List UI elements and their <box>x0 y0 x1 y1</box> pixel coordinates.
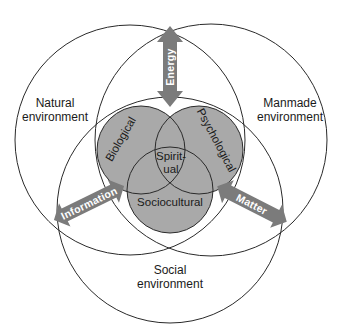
spiritual-label-line1: Spirit- <box>156 150 186 162</box>
spiritual-label-line2: ual <box>163 163 178 175</box>
energy-arrow: Energy <box>157 26 183 107</box>
matter-label: Matter <box>234 191 269 217</box>
natural-environment-label-line2: environment <box>22 110 89 124</box>
environment-venn-diagram: Energy Information Matter Natural enviro… <box>0 0 339 336</box>
sociocultural-label: Sociocultural <box>137 196 203 208</box>
energy-label: Energy <box>164 48 176 85</box>
manmade-environment-label-line1: Manmade <box>263 96 317 110</box>
social-environment-label-line1: Social <box>154 263 187 277</box>
information-label: Information <box>59 184 119 222</box>
natural-environment-label-line1: Natural <box>36 96 75 110</box>
manmade-environment-label-line2: environment <box>257 110 324 124</box>
social-environment-label-line2: environment <box>137 277 204 291</box>
